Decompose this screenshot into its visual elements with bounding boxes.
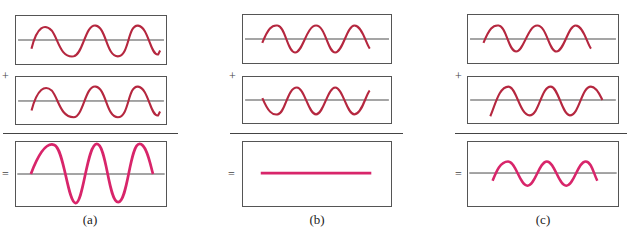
wave2-box-c [467, 76, 619, 124]
caption-c: (c) [513, 212, 573, 228]
panel-c: + = (c) [0, 0, 627, 232]
equals-sign-c: = [455, 168, 462, 180]
input-wave-c1 [468, 15, 618, 63]
wave1-box-c [467, 14, 619, 64]
sum-divider-c [455, 133, 627, 134]
input-wave-c2 [468, 77, 618, 123]
plus-sign-c: + [455, 70, 462, 82]
result-wave-c [468, 142, 618, 206]
result-box-c [467, 141, 619, 207]
